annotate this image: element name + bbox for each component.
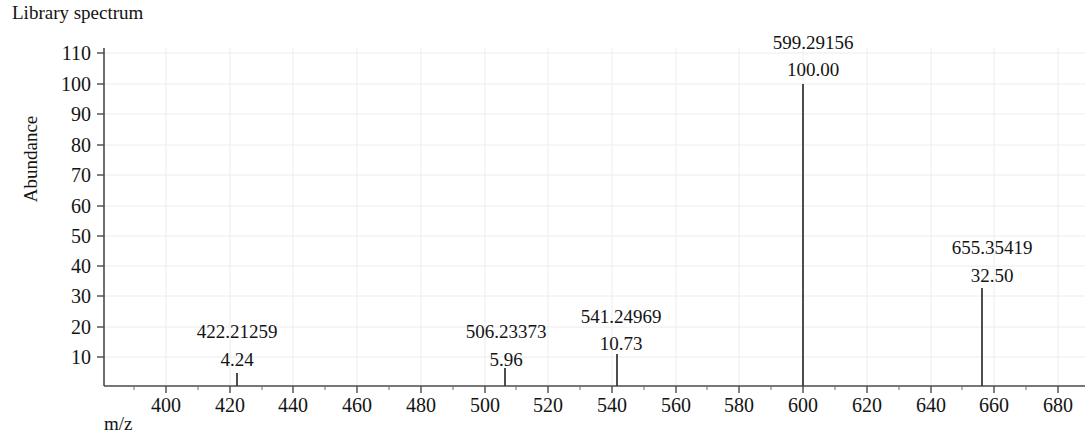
peak-abundance-label: 5.96 [489, 349, 522, 370]
y-tick-label: 50 [71, 225, 91, 247]
x-tick-label: 500 [470, 394, 500, 416]
x-axis-tick-labels: 400 420 440 460 480 500 520 540 560 580 … [151, 394, 1073, 416]
x-tick-label: 620 [852, 394, 882, 416]
x-tick-label: 540 [597, 394, 627, 416]
peak-abundance-label: 32.50 [971, 265, 1014, 286]
x-tick-label: 560 [661, 394, 691, 416]
peak-mz-label: 655.35419 [952, 237, 1033, 258]
y-tick-label: 60 [71, 195, 91, 217]
mass-spectrum-figure: Library spectrum Abundance m/z [0, 0, 1092, 437]
y-tick-label: 80 [71, 134, 91, 156]
x-tick-label: 400 [151, 394, 181, 416]
peak-mz-label: 422.21259 [197, 321, 278, 342]
x-tick-label: 460 [342, 394, 372, 416]
x-tick-label: 600 [788, 394, 818, 416]
peak-abundance-label: 100.00 [787, 59, 839, 80]
y-tick-label: 100 [61, 73, 91, 95]
x-tick-label: 660 [979, 394, 1009, 416]
y-tick-label: 110 [62, 42, 91, 64]
x-tick-label: 420 [215, 394, 245, 416]
peak-mz-label: 599.29156 [773, 32, 854, 53]
spectrum-plot-area: 110 100 90 80 70 60 50 40 30 20 10 400 4… [0, 0, 1092, 437]
x-tick-label: 580 [724, 394, 754, 416]
peak-mz-label: 506.23373 [466, 321, 547, 342]
y-axis-tick-labels: 110 100 90 80 70 60 50 40 30 20 10 [61, 42, 91, 368]
y-tick-label: 10 [71, 346, 91, 368]
y-axis-ticks [97, 53, 104, 357]
y-tick-label: 30 [71, 285, 91, 307]
x-tick-label: 480 [406, 394, 436, 416]
x-tick-label: 520 [533, 394, 563, 416]
y-tick-label: 20 [71, 316, 91, 338]
x-tick-label: 680 [1043, 394, 1073, 416]
peak-abundance-label: 4.24 [220, 349, 254, 370]
peak-mz-label: 541.24969 [581, 306, 662, 327]
x-tick-label: 440 [278, 394, 308, 416]
peak-abundance-label: 10.73 [600, 333, 643, 354]
y-tick-label: 40 [71, 255, 91, 277]
x-axis-major-ticks [166, 386, 1058, 393]
x-tick-label: 640 [916, 394, 946, 416]
y-tick-label: 90 [71, 103, 91, 125]
y-tick-label: 70 [71, 164, 91, 186]
